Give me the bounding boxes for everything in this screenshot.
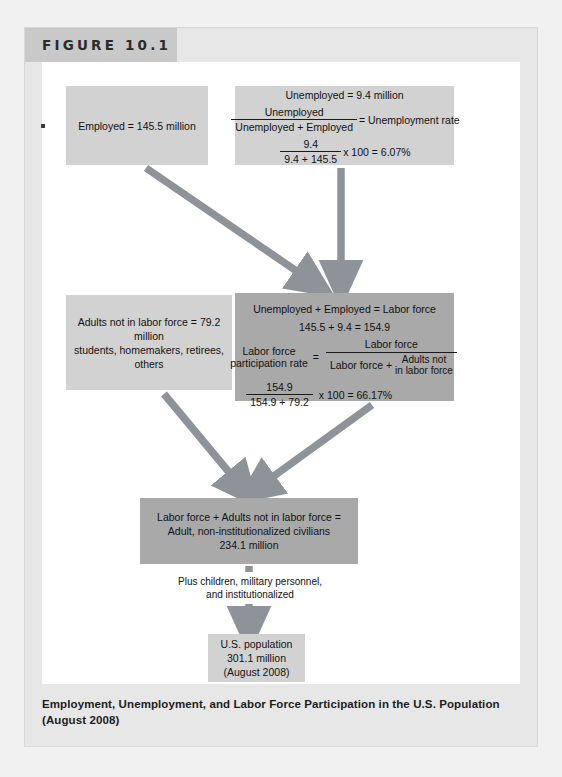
participation-rate-formula: Labor force participation rate = Labor f… — [230, 338, 459, 377]
notinlf-line3: others — [134, 357, 163, 371]
participation-rate-label-line1: Labor force — [242, 345, 295, 358]
unemployment-calc-fraction: 9.4 9.4 + 145.5 — [280, 138, 341, 166]
box-noninstitutionalized-civilians: Labor force + Adults not in labor force … — [140, 498, 358, 564]
box-employed-text: Employed = 145.5 million — [78, 119, 196, 133]
unemployment-rate-formula: Unemployed Unemployed + Employed = Unemp… — [229, 106, 459, 134]
participation-rate-label: Labor force participation rate — [230, 345, 308, 370]
uspop-content: U.S. population 301.1 million (August 20… — [221, 637, 293, 679]
unemployment-numerator: Unemployed — [261, 106, 328, 120]
box-employed: Employed = 145.5 million — [66, 86, 208, 165]
unemployment-denominator: Unemployed + Employed — [231, 119, 357, 134]
participation-equals-sign: = — [313, 350, 319, 364]
participation-denominator-right-line1: Adults not — [402, 354, 446, 366]
participation-denominator-right: Adults not in labor force — [395, 354, 453, 377]
notinlf-line2: students, homemakers, retirees, — [74, 343, 224, 357]
connector-line1: Plus children, military personnel, — [150, 575, 350, 588]
participation-denominator-right-line2: in labor force — [395, 365, 453, 377]
civilians-line3: 234.1 million — [220, 538, 279, 552]
unemployment-content: Unemployed = 9.4 million Unemployed Unem… — [229, 88, 459, 166]
figure-caption: Employment, Unemployment, and Labor Forc… — [42, 697, 512, 728]
box-labor-force: Unemployed + Employed = Labor force 145.… — [235, 293, 454, 401]
figure-page: FIGURE 10.1 Employed = 145.5 million Une… — [0, 0, 562, 777]
uspop-line2: 301.1 million — [227, 651, 286, 665]
notinlf-content: Adults not in labor force = 79.2 million… — [66, 315, 232, 371]
unemployment-calc-result: x 100 = 6.07% — [343, 145, 410, 159]
unemployment-calc-denominator: 9.4 + 145.5 — [280, 151, 341, 166]
civilians-line1: Labor force + Adults not in labor force … — [157, 510, 341, 524]
participation-fraction: Labor force Labor force + Adults not in … — [326, 338, 457, 377]
notinlf-line1: Adults not in labor force = 79.2 million — [66, 315, 232, 343]
civilians-line2: Adult, non-institutionalized civilians — [168, 524, 330, 538]
participation-calc-denominator: 154.9 + 79.2 — [246, 394, 313, 409]
laborforce-sum: 145.5 + 9.4 = 154.9 — [299, 320, 390, 334]
participation-calc-result: x 100 = 66.17% — [319, 388, 392, 402]
unemployment-calc-numerator: 9.4 — [299, 138, 322, 152]
box-us-population: U.S. population 301.1 million (August 20… — [208, 634, 305, 682]
box-adults-not-in-labor-force: Adults not in labor force = 79.2 million… — [66, 295, 232, 390]
unemployment-equals-label: = Unemployment rate — [359, 113, 460, 127]
connector-annotation: Plus children, military personnel, and i… — [150, 575, 350, 601]
laborforce-definition: Unemployed + Employed = Labor force — [253, 302, 436, 316]
uspop-line1: U.S. population — [221, 637, 293, 651]
participation-denominator-left: Labor force + — [330, 359, 392, 372]
participation-calc-numerator: 154.9 — [262, 381, 296, 395]
uspop-line3: (August 2008) — [224, 665, 290, 679]
participation-calc-fraction: 154.9 154.9 + 79.2 — [246, 381, 313, 409]
unemployed-total: Unemployed = 9.4 million — [285, 88, 403, 102]
unemployment-calculation: 9.4 9.4 + 145.5 x 100 = 6.07% — [278, 138, 410, 166]
figure-number-label: FIGURE 10.1 — [42, 37, 171, 53]
bullet-marker — [41, 124, 45, 128]
participation-numerator: Labor force — [361, 338, 422, 352]
participation-calculation: 154.9 154.9 + 79.2 x 100 = 66.17% — [244, 381, 392, 409]
participation-denominator: Labor force + Adults not in labor force — [326, 352, 457, 377]
laborforce-content: Unemployed + Employed = Labor force 145.… — [230, 302, 459, 409]
unemployment-fraction: Unemployed Unemployed + Employed — [231, 106, 357, 134]
participation-rate-label-line2: participation rate — [230, 357, 308, 370]
box-unemployment-rate: Unemployed = 9.4 million Unemployed Unem… — [235, 86, 454, 165]
connector-line2: and institutionalized — [150, 588, 350, 601]
civilians-content: Labor force + Adults not in labor force … — [157, 510, 341, 552]
